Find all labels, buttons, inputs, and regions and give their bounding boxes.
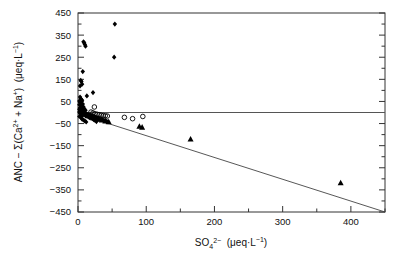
y-tick-label: −150 [50, 140, 71, 151]
data-point-diamond [85, 93, 89, 98]
y-tick-label: −350 [50, 184, 71, 195]
data-point-diamond [91, 90, 95, 95]
y-tick-label: −50 [55, 118, 71, 129]
data-point-circle [122, 115, 127, 120]
series-filled-triangle [95, 116, 343, 185]
svg-text:ANC − Σ(Ca2+ + Na+) (μeq·L−1): ANC − Σ(Ca2+ + Na+) (μeq·L−1) [12, 42, 24, 182]
x-axis-title: SO42− (μeq·L−1) [195, 236, 267, 250]
scatter-plot: 0100200300400 45035025015050−50−150−250−… [0, 0, 398, 260]
data-series-layer [77, 21, 344, 185]
data-point-triangle [338, 180, 344, 186]
y-tick-label: −250 [50, 162, 71, 173]
data-point-circle [130, 116, 135, 121]
y-tick-label: 150 [55, 74, 71, 85]
data-point-triangle [188, 136, 194, 142]
x-tick-label: 400 [343, 216, 359, 227]
y-tick-label: 50 [60, 96, 71, 107]
regression-line [79, 114, 385, 212]
x-axis-tick-labels: 0100200300400 [75, 216, 358, 227]
y-axis-title: ANC − Σ(Ca2+ + Na+) (μeq·L−1) [12, 42, 24, 182]
svg-text:SO42− (μeq·L−1): SO42− (μeq·L−1) [195, 236, 267, 250]
data-point-circle [141, 114, 146, 119]
x-tick-label: 300 [275, 216, 291, 227]
y-tick-label: 450 [55, 7, 71, 18]
series-filled-diamond [77, 21, 117, 124]
data-point-diamond [113, 21, 117, 26]
data-point-diamond [81, 69, 85, 74]
data-point-circle [92, 105, 97, 110]
chart-figure: 0100200300400 45035025015050−50−150−250−… [0, 0, 398, 260]
data-point-diamond [112, 55, 116, 60]
x-axis-ticks [78, 206, 385, 212]
x-tick-label: 0 [75, 216, 80, 227]
y-axis-tick-labels: 45035025015050−50−150−250−350−450 [50, 7, 71, 217]
y-tick-label: −450 [50, 206, 71, 217]
y-tick-label: 350 [55, 30, 71, 41]
x-tick-label: 100 [138, 216, 154, 227]
reference-lines [78, 113, 385, 213]
y-tick-label: 250 [55, 52, 71, 63]
x-tick-label: 200 [207, 216, 223, 227]
